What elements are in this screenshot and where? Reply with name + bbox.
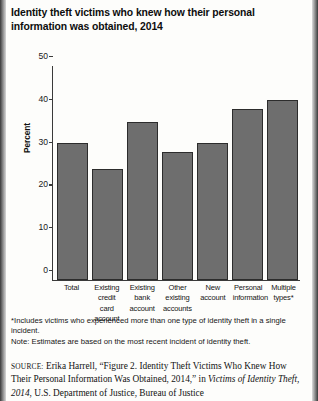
y-axis-label: Percent [22, 103, 32, 173]
bar-series [54, 66, 300, 280]
bar[interactable] [197, 143, 228, 280]
bar-slot [232, 66, 263, 280]
bar-slot [127, 66, 158, 280]
figure-page: Identity theft victims who knew how thei… [6, 0, 312, 401]
source-label: SOURCE: [11, 362, 44, 371]
source-citation: SOURCE: Erika Harrell, “Figure 2. Identi… [11, 360, 303, 400]
y-axis-tick: 50 [38, 51, 53, 61]
note-text: Note: Estimates are based on the most re… [11, 337, 301, 347]
bar[interactable] [57, 143, 88, 280]
bar-slot [197, 66, 228, 280]
y-axis-tick: 20 [38, 179, 53, 189]
bar-chart: Percent 01020304050 TotalExistingcredit … [6, 55, 312, 287]
bar-slot [267, 66, 298, 280]
bar-slot [57, 66, 88, 280]
figure-notes: *Includes victims who experienced more t… [11, 316, 301, 347]
bar[interactable] [267, 100, 298, 280]
y-axis-tick: 30 [38, 137, 53, 147]
y-axis-tick: 10 [38, 222, 53, 232]
source-text-after: , U.S. Department of Justice, Bureau of … [30, 388, 204, 398]
bar[interactable] [232, 109, 263, 280]
plot-area: 01020304050 [52, 66, 300, 281]
bar[interactable] [92, 169, 123, 280]
footnote-text: Includes victims who experienced more th… [11, 316, 286, 335]
page-edge-shadow-right [312, 0, 318, 401]
bar-slot [92, 66, 123, 280]
y-axis-tick: 40 [38, 94, 53, 104]
bar[interactable] [127, 122, 158, 280]
footnote-line: *Includes victims who experienced more t… [11, 316, 301, 337]
bar-slot [162, 66, 193, 280]
y-axis-tick: 0 [43, 265, 53, 275]
figure-title: Identity theft victims who knew how thei… [11, 6, 297, 33]
bar[interactable] [162, 152, 193, 280]
